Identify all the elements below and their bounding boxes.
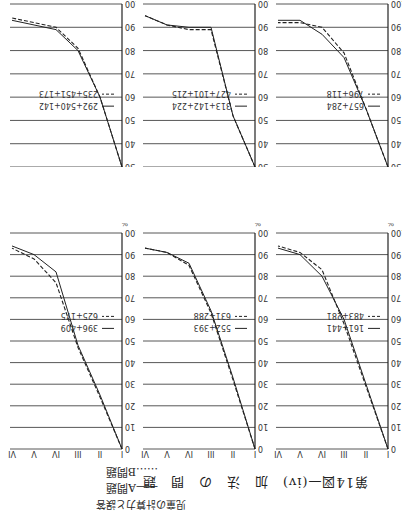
rotated-scanned-page: 児童の計算力と誤答 第14図—(iv) 加 法 の 問 題 ——A問題 ……B問…	[0, 0, 404, 519]
svg-text:100: 100	[258, 0, 269, 8]
svg-text:%: %	[254, 223, 261, 227]
svg-text:50: 50	[125, 115, 135, 124]
svg-text:292+540+142: 292+540+142	[39, 101, 98, 110]
svg-text:30: 30	[125, 162, 135, 167]
svg-text:100: 100	[391, 228, 402, 237]
running-head: 児童の計算力と誤答	[96, 498, 186, 513]
svg-text:50: 50	[258, 336, 268, 345]
svg-text:I: I	[387, 449, 389, 458]
svg-text:70: 70	[125, 293, 135, 302]
line-chart-4: 30405060708090100%657+284796+118	[268, 0, 402, 167]
legend-item-a: ——A問題	[106, 481, 158, 497]
svg-text:VI: VI	[8, 449, 16, 458]
svg-text:70: 70	[258, 69, 268, 78]
svg-text:III: III	[207, 449, 214, 458]
svg-text:40: 40	[258, 139, 268, 148]
svg-text:60: 60	[391, 314, 401, 323]
svg-text:80: 80	[125, 46, 135, 55]
svg-text:60: 60	[258, 314, 268, 323]
line-chart-5: 30405060708090100%313+142+224427+101+215	[135, 0, 269, 167]
svg-text:30: 30	[391, 162, 401, 167]
svg-text:V: V	[297, 449, 303, 458]
svg-text:20: 20	[391, 401, 401, 410]
svg-text:60: 60	[391, 92, 401, 101]
svg-text:30: 30	[258, 162, 268, 167]
svg-text:100: 100	[258, 228, 269, 237]
svg-text:VI: VI	[141, 449, 149, 458]
svg-text:60: 60	[125, 314, 135, 323]
figure-subtitle: 加 法 の 問 題	[142, 474, 268, 493]
svg-text:60: 60	[258, 92, 268, 101]
figure-title: 第14図—(iv)	[282, 474, 368, 493]
svg-text:III: III	[340, 449, 347, 458]
svg-text:80: 80	[391, 271, 401, 280]
svg-text:VI: VI	[274, 449, 282, 458]
svg-text:20: 20	[258, 401, 268, 410]
svg-text:80: 80	[125, 271, 135, 280]
svg-text:0: 0	[391, 444, 396, 453]
svg-text:10: 10	[391, 422, 401, 431]
svg-text:%: %	[121, 223, 128, 227]
svg-text:90: 90	[258, 250, 268, 259]
svg-text:90: 90	[391, 22, 401, 31]
svg-text:30: 30	[258, 379, 268, 388]
svg-text:0: 0	[258, 444, 263, 453]
svg-text:10: 10	[258, 422, 268, 431]
svg-text:70: 70	[391, 69, 401, 78]
svg-text:II: II	[98, 449, 103, 458]
svg-text:100: 100	[125, 228, 136, 237]
svg-text:II: II	[364, 449, 369, 458]
svg-text:80: 80	[258, 46, 268, 55]
svg-text:80: 80	[391, 46, 401, 55]
legend: ——A問題 ……B問題	[106, 465, 158, 497]
line-chart-3: 0102030405060708090100%IIIIIIIVVVI396+40…	[2, 223, 136, 459]
svg-text:552+393: 552+393	[194, 323, 231, 332]
svg-text:50: 50	[391, 115, 401, 124]
svg-text:70: 70	[391, 293, 401, 302]
svg-text:90: 90	[391, 250, 401, 259]
svg-text:100: 100	[391, 0, 402, 8]
svg-text:IV: IV	[318, 449, 326, 458]
svg-text:50: 50	[391, 336, 401, 345]
svg-text:90: 90	[125, 250, 135, 259]
legend-item-b: ……B問題	[106, 465, 158, 481]
svg-text:50: 50	[258, 115, 268, 124]
svg-text:I: I	[254, 449, 256, 458]
svg-text:70: 70	[125, 69, 135, 78]
svg-text:40: 40	[258, 358, 268, 367]
svg-text:313+142+224: 313+142+224	[172, 101, 231, 110]
svg-text:I: I	[121, 449, 123, 458]
svg-text:483+281: 483+281	[327, 311, 364, 320]
svg-text:10: 10	[125, 422, 135, 431]
line-chart-2: 0102030405060708090100%IIIIIIIVVVI552+39…	[135, 223, 269, 459]
svg-text:0: 0	[125, 444, 130, 453]
svg-text:30: 30	[125, 379, 135, 388]
svg-text:IV: IV	[52, 449, 60, 458]
svg-text:796+118: 796+118	[327, 89, 364, 98]
svg-text:657+284: 657+284	[327, 101, 364, 110]
svg-text:V: V	[164, 449, 170, 458]
svg-text:235+451+173: 235+451+173	[39, 89, 98, 98]
svg-text:70: 70	[258, 293, 268, 302]
svg-text:40: 40	[391, 139, 401, 148]
svg-text:631+288: 631+288	[194, 311, 231, 320]
svg-text:625+175: 625+175	[61, 311, 98, 320]
svg-text:V: V	[31, 449, 37, 458]
svg-text:50: 50	[125, 336, 135, 345]
svg-text:427+101+215: 427+101+215	[172, 89, 231, 98]
line-chart-1: 0102030405060708090100%IIIIIIIVVVI161+44…	[268, 223, 402, 459]
svg-text:20: 20	[125, 401, 135, 410]
svg-text:30: 30	[391, 379, 401, 388]
svg-text:40: 40	[125, 139, 135, 148]
line-chart-6: 30405060708090100%292+540+142235+451+173	[2, 0, 136, 167]
svg-text:40: 40	[125, 358, 135, 367]
svg-text:90: 90	[125, 22, 135, 31]
svg-text:II: II	[231, 449, 236, 458]
svg-text:40: 40	[391, 358, 401, 367]
svg-text:60: 60	[125, 92, 135, 101]
svg-text:III: III	[74, 449, 81, 458]
svg-text:%: %	[387, 223, 394, 227]
svg-text:396+409: 396+409	[61, 323, 98, 332]
svg-text:100: 100	[125, 0, 136, 8]
svg-text:80: 80	[258, 271, 268, 280]
